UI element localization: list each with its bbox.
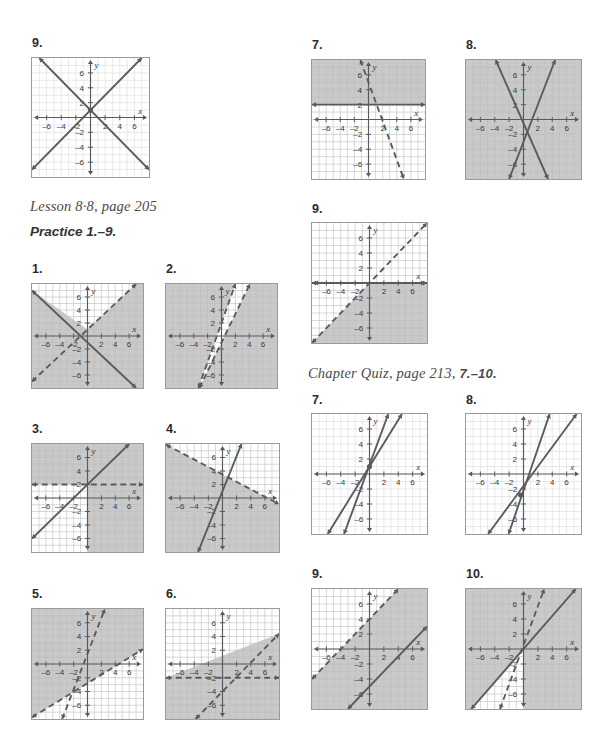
- svg-text:4: 4: [550, 653, 555, 662]
- svg-text:4: 4: [113, 668, 118, 677]
- question-number-2: 2.: [166, 262, 176, 276]
- svg-text:–4: –4: [354, 675, 363, 684]
- svg-text:2: 2: [359, 264, 364, 273]
- svg-text:–4: –4: [190, 502, 199, 511]
- svg-text:4: 4: [77, 632, 82, 641]
- svg-text:–6: –6: [476, 124, 485, 133]
- svg-text:6: 6: [211, 293, 216, 302]
- svg-text:–4: –4: [72, 358, 81, 367]
- svg-text:–2: –2: [508, 485, 517, 494]
- svg-text:y: y: [93, 60, 98, 70]
- svg-text:–6: –6: [476, 478, 485, 487]
- svg-text:–4: –4: [354, 309, 363, 318]
- svg-text:6: 6: [132, 122, 137, 131]
- svg-text:4: 4: [358, 86, 363, 95]
- svg-text:y: y: [372, 225, 377, 235]
- question-number-8: 8.: [466, 393, 476, 407]
- svg-text:x: x: [569, 637, 574, 647]
- graph-g-q10: –6–4–2246642–2–4–6xy: [465, 588, 582, 710]
- svg-text:–6: –6: [75, 158, 84, 167]
- svg-text:2: 2: [513, 630, 518, 639]
- svg-text:4: 4: [211, 306, 216, 315]
- svg-text:4: 4: [359, 440, 364, 449]
- svg-text:–4: –4: [55, 668, 64, 677]
- svg-text:2: 2: [536, 653, 541, 662]
- svg-text:–6: –6: [72, 371, 81, 380]
- svg-text:–6: –6: [41, 340, 50, 349]
- svg-text:6: 6: [359, 425, 364, 434]
- graph-g-p2: –6–4–2246642–2–4–6xy: [165, 283, 278, 389]
- svg-text:y: y: [90, 611, 95, 621]
- svg-text:y: y: [225, 446, 230, 456]
- svg-text:4: 4: [359, 615, 364, 624]
- svg-text:2: 2: [99, 340, 104, 349]
- svg-text:–6: –6: [42, 122, 51, 131]
- svg-text:6: 6: [410, 287, 415, 296]
- graph-g-q7: –6–4–2246642–2–4–6xy: [311, 413, 428, 535]
- svg-text:–6: –6: [322, 287, 331, 296]
- svg-text:–6: –6: [322, 478, 331, 487]
- svg-text:6: 6: [261, 340, 266, 349]
- svg-text:6: 6: [127, 340, 132, 349]
- graph-g-p4: –6–4–2246642–2–4–6xy: [165, 443, 280, 553]
- svg-text:–4: –4: [336, 287, 345, 296]
- svg-text:y: y: [372, 591, 377, 601]
- svg-text:–2: –2: [354, 660, 363, 669]
- svg-text:6: 6: [409, 124, 414, 133]
- question-number-9: 9.: [312, 567, 322, 581]
- svg-text:6: 6: [212, 453, 217, 462]
- svg-text:4: 4: [513, 440, 518, 449]
- svg-text:2: 2: [77, 480, 82, 489]
- svg-text:6: 6: [127, 502, 132, 511]
- svg-text:6: 6: [77, 619, 82, 628]
- svg-text:x: x: [569, 462, 574, 472]
- svg-text:4: 4: [396, 478, 401, 487]
- svg-text:–4: –4: [189, 340, 198, 349]
- svg-text:2: 2: [77, 319, 82, 328]
- heading-chapter-quiz-range: 7.–10.: [459, 366, 496, 381]
- svg-text:4: 4: [77, 306, 82, 315]
- svg-text:6: 6: [80, 69, 85, 78]
- svg-text:x: x: [137, 106, 142, 116]
- svg-text:–6: –6: [72, 701, 81, 710]
- svg-text:–6: –6: [206, 371, 215, 380]
- svg-text:–4: –4: [490, 478, 499, 487]
- svg-text:y: y: [372, 416, 377, 426]
- svg-text:–2: –2: [75, 128, 84, 137]
- svg-text:–2: –2: [353, 130, 362, 139]
- svg-text:y: y: [224, 286, 229, 296]
- svg-text:6: 6: [513, 600, 518, 609]
- svg-text:–6: –6: [353, 160, 362, 169]
- svg-text:–4: –4: [353, 145, 362, 154]
- graph-g-p3: –6–4–2246642–2–4–6xy: [31, 443, 144, 553]
- svg-text:4: 4: [249, 502, 254, 511]
- svg-text:4: 4: [513, 615, 518, 624]
- answer-key-page: 9.7.8.9.1.2.3.4.5.6.7.8.9.10. –6–4–22466…: [0, 0, 593, 743]
- svg-text:4: 4: [550, 478, 555, 487]
- svg-text:–6: –6: [175, 340, 184, 349]
- svg-text:6: 6: [358, 71, 363, 80]
- svg-text:6: 6: [77, 453, 82, 462]
- svg-text:4: 4: [550, 124, 555, 133]
- question-number-7: 7.: [312, 393, 322, 407]
- svg-text:4: 4: [513, 86, 518, 95]
- svg-text:–4: –4: [57, 122, 66, 131]
- svg-text:4: 4: [395, 124, 400, 133]
- svg-text:–6: –6: [72, 534, 81, 543]
- svg-text:4: 4: [247, 340, 252, 349]
- svg-text:6: 6: [212, 619, 217, 628]
- svg-text:2: 2: [359, 630, 364, 639]
- svg-text:–4: –4: [207, 687, 216, 696]
- svg-text:–4: –4: [490, 653, 499, 662]
- svg-text:–4: –4: [336, 478, 345, 487]
- svg-text:x: x: [131, 324, 136, 334]
- svg-text:y: y: [526, 416, 531, 426]
- svg-text:y: y: [371, 62, 376, 72]
- svg-text:y: y: [526, 591, 531, 601]
- svg-text:2: 2: [536, 478, 541, 487]
- svg-text:–6: –6: [176, 668, 185, 677]
- svg-text:y: y: [90, 446, 95, 456]
- graph-g-p1: –6–4–2246642–2–4–6xy: [31, 283, 144, 389]
- svg-text:2: 2: [513, 455, 518, 464]
- svg-text:2: 2: [77, 646, 82, 655]
